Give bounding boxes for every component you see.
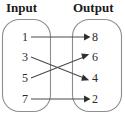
output-value-3: 4 <box>89 72 101 84</box>
input-value-2: 3 <box>19 51 31 63</box>
output-value-2: 6 <box>89 51 101 63</box>
input-value-1: 1 <box>19 31 31 43</box>
input-value-3: 5 <box>19 72 31 84</box>
mapping-diagram-figure: Input Output 1 3 5 7 8 6 4 2 <box>0 0 125 116</box>
arrow-head-3-to-4 <box>81 74 89 80</box>
output-value-1: 8 <box>89 31 101 43</box>
arrow-head-5-to-6 <box>81 53 89 59</box>
input-value-4: 7 <box>19 93 31 105</box>
output-value-4: 2 <box>89 93 101 105</box>
